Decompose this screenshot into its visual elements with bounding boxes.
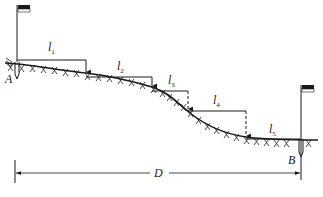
label-l1: l1 [48, 40, 55, 56]
flag-b-dark [302, 85, 314, 89]
segment-l3: l3 [152, 73, 188, 109]
stepped-taping-diagram: A B l1 l2 l3 l4 l5 D [0, 0, 323, 197]
label-l2: l2 [117, 59, 124, 75]
flag-b-light [302, 89, 314, 92]
segment-l5: l5 [246, 122, 301, 139]
label-d: D [153, 166, 163, 180]
stake-b [299, 85, 314, 180]
label-l5: l5 [269, 122, 276, 138]
label-a: A [4, 72, 13, 86]
segment-l1: l1 [17, 40, 86, 72]
stake-a [15, 5, 30, 79]
label-l3: l3 [168, 73, 175, 89]
label-b: B [288, 153, 296, 167]
label-l4: l4 [213, 93, 220, 109]
dimension-d: D [15, 160, 300, 183]
ground-hatching [8, 64, 311, 147]
flag-a-light [18, 9, 30, 12]
flag-a-dark [18, 5, 30, 9]
